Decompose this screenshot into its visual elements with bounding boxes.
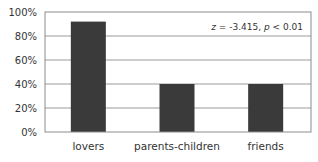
bar-friends <box>248 84 283 132</box>
y-tick-label: 40% <box>15 79 37 90</box>
statistics-annotation: z = -3.415, p < 0.01 <box>210 22 303 32</box>
y-tick-label: 100% <box>8 7 37 18</box>
bar-lovers <box>71 22 106 132</box>
bars <box>71 22 283 132</box>
y-tick-label: 0% <box>21 127 37 138</box>
bar-parents-children <box>160 84 195 132</box>
x-label-friends: friends <box>248 140 284 152</box>
x-axis-labels: loversparents-childrenfriends <box>72 140 283 152</box>
y-tick-label: 80% <box>15 31 37 42</box>
bar-chart: 0%20%40%60%80%100% loversparents-childre… <box>0 0 318 162</box>
y-tick-label: 60% <box>15 55 37 66</box>
x-label-lovers: lovers <box>72 140 104 152</box>
y-axis-ticks: 0%20%40%60%80%100% <box>8 7 37 138</box>
z-value: = -3.415, <box>216 22 264 32</box>
x-label-parents-children: parents-children <box>134 140 220 152</box>
y-tick-label: 20% <box>15 103 37 114</box>
p-value: < 0.01 <box>270 22 303 32</box>
